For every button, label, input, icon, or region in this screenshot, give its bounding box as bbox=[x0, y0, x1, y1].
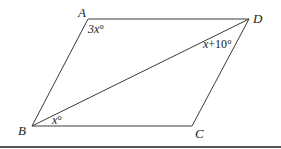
angle-a-var: 3 bbox=[87, 22, 94, 36]
diagonal-bd bbox=[32, 19, 249, 126]
angle-d-suffix: +10° bbox=[208, 37, 232, 51]
edge-dc bbox=[192, 19, 249, 126]
vertex-label-c: C bbox=[195, 126, 204, 141]
angle-label-d: x+10° bbox=[202, 37, 232, 51]
vertex-label-d: D bbox=[252, 11, 263, 26]
vertex-label-a: A bbox=[77, 5, 86, 20]
angle-a-suffix: ° bbox=[99, 22, 104, 36]
angle-label-a: 3x° bbox=[87, 22, 104, 36]
bottom-rule bbox=[0, 146, 281, 148]
angle-b-suffix: ° bbox=[57, 113, 62, 127]
parallelogram-diagram: A D B C 3x° x+10° x° bbox=[0, 0, 281, 149]
edge-ba bbox=[32, 19, 88, 126]
vertex-label-b: B bbox=[18, 123, 26, 138]
angle-label-b: x° bbox=[51, 113, 62, 127]
